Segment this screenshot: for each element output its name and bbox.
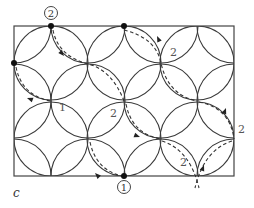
figure-caption: c bbox=[13, 186, 20, 200]
node-dot bbox=[11, 60, 17, 66]
pattern-circle bbox=[197, 139, 254, 208]
pattern-circle bbox=[197, 64, 254, 138]
pattern-circle bbox=[160, 26, 234, 100]
pattern-circle bbox=[14, 26, 88, 100]
dashed-route bbox=[195, 141, 232, 188]
edge-label: 2 bbox=[170, 46, 177, 59]
edge-label: 1 bbox=[59, 101, 66, 114]
node-dot bbox=[121, 173, 127, 179]
node-dots bbox=[11, 23, 127, 179]
marker-label: 2 bbox=[48, 8, 54, 19]
edge-label: 2 bbox=[238, 123, 245, 136]
marker-label: 1 bbox=[121, 182, 127, 193]
pattern-circle bbox=[0, 139, 51, 208]
shippo-pattern-diagram: 21 12222 c bbox=[0, 0, 254, 208]
node-dot bbox=[48, 23, 54, 29]
pattern-circle bbox=[124, 64, 198, 138]
arrowhead-icon bbox=[134, 133, 141, 140]
arrowhead-icon bbox=[26, 96, 33, 103]
pattern-circle bbox=[197, 0, 254, 63]
arrowhead-icon bbox=[58, 50, 66, 58]
node-dot bbox=[121, 23, 127, 29]
arrowhead-icon bbox=[93, 171, 101, 179]
pattern-circle bbox=[87, 102, 161, 176]
dashed-route bbox=[53, 30, 124, 101]
arrowhead-icon bbox=[155, 35, 162, 42]
pattern-circle bbox=[0, 0, 51, 63]
edge-label: 2 bbox=[180, 156, 187, 169]
pattern-circle bbox=[0, 64, 51, 138]
pattern-circle bbox=[87, 26, 161, 100]
edge-label: 2 bbox=[110, 107, 117, 120]
pattern-circle bbox=[14, 102, 88, 176]
